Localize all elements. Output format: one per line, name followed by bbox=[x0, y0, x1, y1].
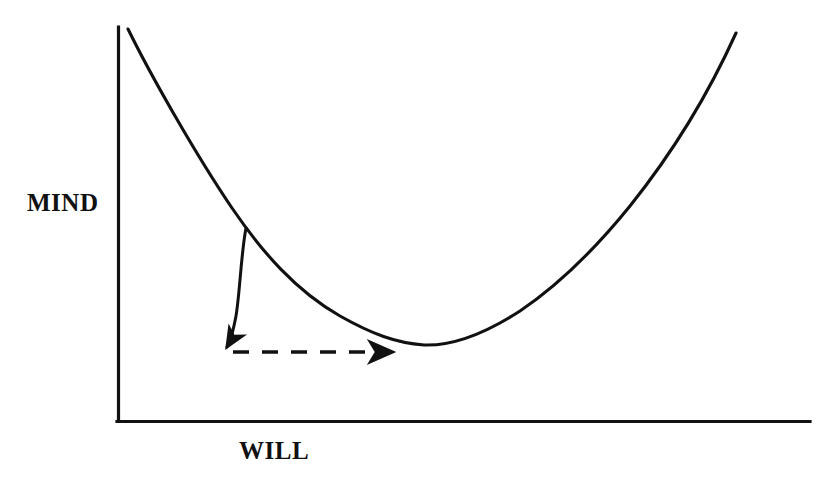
axes-group bbox=[117, 27, 810, 422]
x-axis-label: WILL bbox=[239, 437, 309, 465]
curved-arrow bbox=[227, 228, 246, 347]
diagram-canvas bbox=[0, 0, 839, 487]
y-axis-label: MIND bbox=[27, 189, 98, 217]
diagram-root: MIND WILL bbox=[0, 0, 839, 487]
mind-will-curve bbox=[128, 29, 736, 345]
curved-arrow-group bbox=[227, 228, 246, 347]
curve-group bbox=[128, 29, 736, 345]
